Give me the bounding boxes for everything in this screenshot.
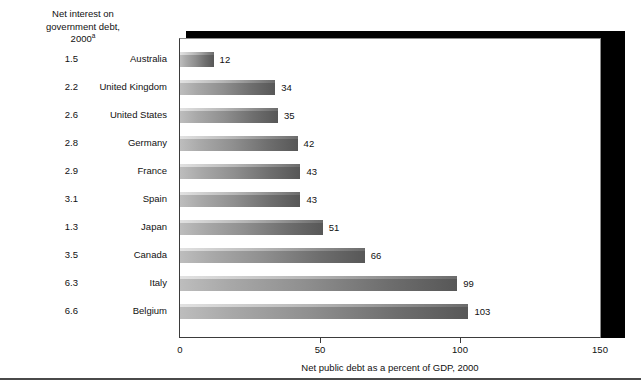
country-name: Germany <box>82 136 167 150</box>
country-name: Japan <box>82 220 167 234</box>
bar-value-label: 34 <box>281 80 292 95</box>
country-name: United States <box>82 108 167 122</box>
bar-value-label: 66 <box>371 248 382 263</box>
country-name: Italy <box>82 276 167 290</box>
left-column-header-line2: government debt, <box>8 21 158 34</box>
net-interest-value: 6.6 <box>40 304 78 318</box>
x-axis-tick-label: 150 <box>592 344 608 356</box>
x-axis-tick <box>320 338 321 343</box>
x-axis-tick <box>460 338 461 343</box>
net-interest-value: 3.1 <box>40 192 78 206</box>
left-column-header-year: 2000 <box>71 33 92 44</box>
bar-value-label: 99 <box>463 276 474 291</box>
country-name: Belgium <box>82 304 167 318</box>
row-label: 2.9France <box>0 164 172 178</box>
row-label: 3.5Canada <box>0 248 172 262</box>
row-label: 1.3Japan <box>0 220 172 234</box>
row-label: 2.2United Kingdom <box>0 80 172 94</box>
country-name: Canada <box>82 248 167 262</box>
row-label: 6.3Italy <box>0 276 172 290</box>
bar <box>180 192 300 207</box>
row-label: 6.6Belgium <box>0 304 172 318</box>
bar-value-label: 43 <box>306 164 317 179</box>
country-name: United Kingdom <box>82 80 167 94</box>
net-interest-value: 1.5 <box>40 52 78 66</box>
bar <box>180 164 300 179</box>
row-label: 2.6United States <box>0 108 172 122</box>
footnote-marker: a <box>92 32 96 39</box>
bar-value-label: 12 <box>220 52 231 67</box>
x-axis-title: Net public debt as a percent of GDP, 200… <box>179 362 601 373</box>
row-label: 3.1Spain <box>0 192 172 206</box>
bar-value-label: 43 <box>306 192 317 207</box>
x-axis-tick-label: 0 <box>177 344 182 356</box>
bar <box>180 276 457 291</box>
country-name: Spain <box>82 192 167 206</box>
bar <box>180 52 214 67</box>
row-label: 1.5Australia <box>0 52 172 66</box>
net-interest-value: 2.6 <box>40 108 78 122</box>
net-interest-value: 2.9 <box>40 164 78 178</box>
left-column-header-line3: 2000a <box>8 33 158 46</box>
row-label: 2.8Germany <box>0 136 172 150</box>
bar <box>180 136 298 151</box>
bar <box>180 80 275 95</box>
net-interest-value: 2.8 <box>40 136 78 150</box>
country-name: France <box>82 164 167 178</box>
x-axis-tick-label: 100 <box>452 344 468 356</box>
bar-value-label: 51 <box>329 220 340 235</box>
net-interest-value: 6.3 <box>40 276 78 290</box>
bar <box>180 248 365 263</box>
left-column-header-line1: Net interest on <box>8 8 158 21</box>
x-axis-tick-label: 50 <box>315 344 326 356</box>
country-name: Australia <box>82 52 167 66</box>
bar-value-label: 103 <box>474 304 490 319</box>
bar <box>180 220 323 235</box>
net-interest-value: 3.5 <box>40 248 78 262</box>
bar <box>180 304 468 319</box>
bar-value-label: 35 <box>284 108 295 123</box>
net-interest-value: 2.2 <box>40 80 78 94</box>
left-column-header: Net interest on government debt, 2000a <box>8 8 158 46</box>
bar <box>180 108 278 123</box>
net-interest-value: 1.3 <box>40 220 78 234</box>
bottom-rule <box>0 378 641 380</box>
bar-value-label: 42 <box>304 136 315 151</box>
